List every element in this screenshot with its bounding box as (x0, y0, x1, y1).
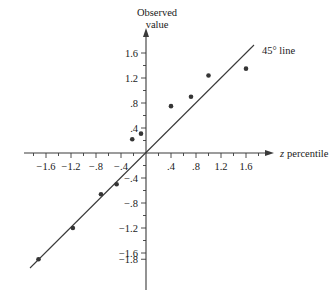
y-axis-tick-label: 1.2 (125, 73, 138, 84)
x-axis-tick-label: 1.2 (214, 161, 227, 172)
x-axis-tick-label: .8 (192, 161, 200, 172)
y-axis-tick-label: −1.2 (119, 223, 138, 234)
y-axis-tick-label: 1.6 (125, 48, 138, 59)
plot-canvas: −1.6−1.2−.8−.4.4.81.21.61.61.2.8.4−.4−.8… (0, 0, 334, 304)
data-point (244, 66, 249, 71)
data-point (36, 257, 41, 262)
x-axis-tick-label: .4 (167, 161, 176, 172)
x-axis-tick-label: −.4 (114, 161, 129, 172)
data-point (139, 131, 144, 136)
y-axis-tick-label: .8 (130, 98, 138, 109)
y-axis-tick-label: −.4 (124, 173, 139, 184)
y-axis-tick-label: −.8 (124, 198, 138, 209)
data-point (189, 94, 194, 99)
x-axis-tick-label: −1.2 (61, 161, 80, 172)
x-axis-title-rest: percentile (287, 148, 329, 159)
data-point (114, 182, 119, 187)
x-axis-tick-label: 1.6 (239, 161, 252, 172)
x-axis-tick-label: −1.6 (36, 161, 55, 172)
y-axis-title-line1: Observed (137, 7, 178, 18)
x-axis-title-symbol: z (279, 148, 284, 159)
y-axis-tick-label: −1.8 (119, 254, 138, 265)
x-axis-arrow-icon (265, 150, 274, 156)
data-point (206, 73, 211, 78)
data-point (130, 137, 135, 142)
reference-line-annotation-label: 45° line (262, 45, 295, 56)
axis-tick-labels-group: −1.6−1.2−.8−.4.4.81.21.61.61.2.8.4−.4−.8… (36, 48, 252, 265)
y-axis-title-line2: value (146, 19, 169, 30)
data-point (169, 104, 174, 109)
data-point (71, 226, 76, 231)
data-point (99, 192, 104, 197)
y-axis-tick-label: .4 (130, 123, 139, 134)
x-axis-tick-label: −.8 (89, 161, 103, 172)
normal-probability-plot-figure: −1.6−1.2−.8−.4.4.81.21.61.61.2.8.4−.4−.8… (0, 0, 334, 304)
